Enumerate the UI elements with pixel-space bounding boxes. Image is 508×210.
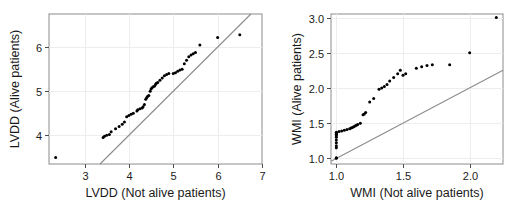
wmi-data-point — [340, 129, 343, 132]
lvdd-qq-panel: 34567456LVDD (Not alive patients)LVDD (A… — [0, 0, 268, 210]
lvdd-data-point — [216, 36, 219, 39]
wmi-data-point — [356, 123, 359, 126]
wmi-data-point — [380, 86, 383, 89]
wmi-data-point — [495, 16, 498, 19]
wmi-data-point — [468, 51, 471, 54]
lvdd-panel-background — [49, 14, 262, 164]
lvdd-data-point — [132, 112, 135, 115]
lvdd-data-point — [118, 125, 121, 128]
wmi-data-point — [383, 85, 386, 88]
lvdd-ytick-label: 6 — [36, 42, 42, 54]
lvdd-data-point — [105, 134, 108, 137]
lvdd-data-point — [198, 43, 201, 46]
wmi-ytick-label: 3.0 — [309, 13, 324, 25]
wmi-data-point — [448, 63, 451, 66]
lvdd-data-point — [181, 68, 184, 71]
lvdd-data-point — [110, 130, 113, 133]
wmi-data-point — [399, 69, 402, 72]
wmi-xtick-label: 1.5 — [396, 170, 411, 182]
wmi-data-point — [359, 122, 362, 125]
wmi-data-point — [420, 65, 423, 68]
lvdd-data-point — [54, 156, 57, 159]
lvdd-ytick-label: 4 — [36, 130, 42, 142]
wmi-qq-panel: 1.01.52.01.01.52.02.53.0WMI (Not alive p… — [268, 0, 508, 210]
wmi-data-point — [343, 129, 346, 132]
wmi-data-point — [335, 131, 338, 134]
wmi-data-point — [338, 130, 341, 133]
wmi-plot-canvas: 1.01.52.01.01.52.02.53.0WMI (Not alive p… — [268, 0, 508, 210]
wmi-ytick-label: 2.5 — [309, 48, 324, 60]
lvdd-xtick-label: 4 — [126, 170, 132, 182]
wmi-data-point — [335, 141, 338, 144]
lvdd-data-point — [183, 62, 186, 65]
wmi-data-point — [396, 72, 399, 75]
lvdd-data-point — [185, 59, 188, 62]
wmi-ytick-label: 2.0 — [309, 83, 324, 95]
wmi-ytick-label: 1.5 — [309, 118, 324, 130]
wmi-data-point — [346, 128, 349, 131]
wmi-x-axis-title: WMI (Not alive patients) — [350, 186, 483, 200]
lvdd-data-point — [108, 133, 111, 136]
wmi-data-point — [426, 64, 429, 67]
lvdd-data-point — [167, 72, 170, 75]
wmi-xtick-label: 2.0 — [463, 170, 478, 182]
wmi-data-point — [368, 101, 371, 104]
lvdd-xtick-label: 5 — [170, 170, 176, 182]
lvdd-data-point — [158, 79, 161, 82]
lvdd-data-point — [238, 33, 241, 36]
lvdd-ytick-label: 5 — [36, 86, 42, 98]
lvdd-data-point — [121, 123, 124, 126]
lvdd-data-point — [114, 127, 117, 130]
lvdd-data-point — [194, 51, 197, 54]
lvdd-plot-canvas: 34567456LVDD (Not alive patients)LVDD (A… — [0, 0, 268, 210]
lvdd-data-point — [147, 94, 150, 97]
wmi-data-point — [404, 72, 407, 75]
wmi-data-point — [431, 63, 434, 66]
wmi-y-axis-title: WMI (Alive patients) — [290, 33, 304, 145]
wmi-data-point — [378, 88, 381, 91]
wmi-data-point — [335, 144, 338, 147]
wmi-data-point — [392, 76, 395, 79]
wmi-data-point — [415, 67, 418, 70]
wmi-data-point — [402, 74, 405, 77]
lvdd-x-axis-title: LVDD (Not alive patients) — [85, 186, 225, 200]
qq-plot-figure: 34567456LVDD (Not alive patients)LVDD (A… — [0, 0, 508, 210]
lvdd-data-point — [123, 121, 126, 124]
lvdd-data-point — [156, 81, 159, 84]
wmi-data-point — [372, 97, 375, 100]
wmi-xtick-label: 1.0 — [329, 170, 344, 182]
wmi-data-point — [335, 139, 338, 142]
lvdd-y-axis-title: LVDD (Alive patients) — [8, 30, 22, 149]
lvdd-data-point — [143, 103, 146, 106]
lvdd-xtick-label: 3 — [82, 170, 88, 182]
wmi-ytick-label: 1.0 — [309, 153, 324, 165]
lvdd-xtick-label: 6 — [215, 170, 221, 182]
lvdd-data-point — [161, 76, 164, 79]
wmi-data-point — [335, 156, 338, 159]
wmi-data-point — [388, 79, 391, 82]
wmi-data-point — [386, 83, 389, 86]
wmi-data-point — [364, 111, 367, 114]
lvdd-xtick-label: 7 — [259, 170, 265, 182]
